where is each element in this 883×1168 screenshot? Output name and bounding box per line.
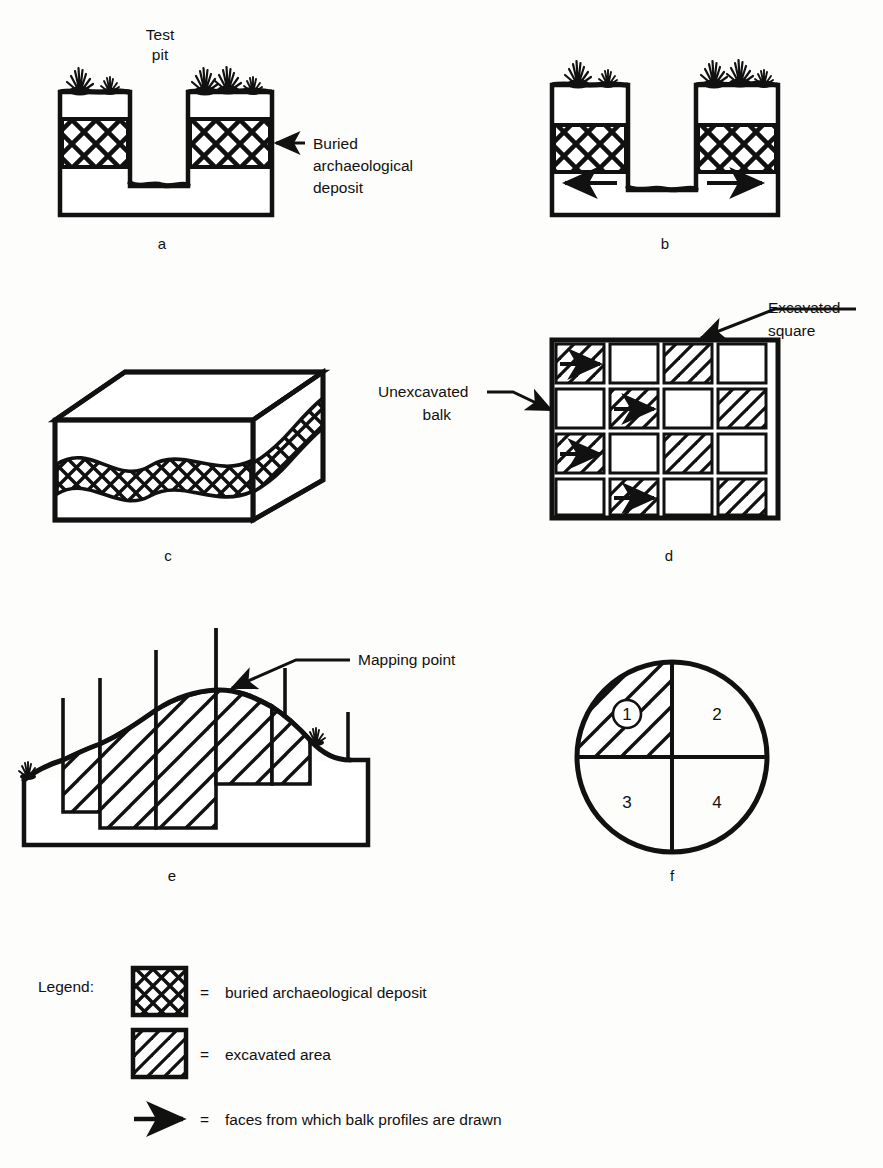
grid-cell[interactable] bbox=[718, 389, 766, 428]
quadrant-2-number: 2 bbox=[712, 705, 721, 724]
deposit-band-right bbox=[190, 119, 270, 167]
panel-letter-c: c bbox=[164, 547, 172, 564]
buried-deposit-label-line3: deposit bbox=[313, 179, 364, 196]
test-pit-label-line2: pit bbox=[152, 46, 169, 63]
panel-c-block bbox=[55, 372, 323, 520]
quadrant-4-number: 4 bbox=[712, 793, 721, 812]
deposit-band-left bbox=[62, 119, 128, 167]
grid-cell[interactable] bbox=[610, 434, 658, 473]
deposit-band-right bbox=[698, 125, 776, 172]
buried-deposit-label-line1: Buried bbox=[313, 135, 358, 152]
legend-equals-3: = bbox=[200, 1111, 209, 1128]
panel-letter-d: d bbox=[665, 547, 673, 564]
legend-equals-2: = bbox=[200, 1046, 209, 1063]
panel-letter-b: b bbox=[661, 235, 669, 252]
quadrant-3-number: 3 bbox=[622, 793, 631, 812]
grid-cell[interactable] bbox=[718, 344, 766, 383]
legend-text-2: excavated area bbox=[225, 1046, 331, 1063]
test-pit-label-line1: Test bbox=[146, 26, 175, 43]
excavated-square-label-line2: square bbox=[768, 322, 815, 339]
legend-heading: Legend: bbox=[38, 978, 94, 995]
grid-cell[interactable] bbox=[610, 344, 658, 383]
crosshatch-swatch bbox=[133, 968, 186, 1015]
pit-floor bbox=[130, 183, 188, 186]
grid-cell[interactable] bbox=[718, 434, 766, 473]
archaeology-excavation-figure: Test pit Buried archaeological deposit a bbox=[0, 0, 883, 1168]
mapping-point-label: Mapping point bbox=[358, 651, 456, 668]
grid-cell[interactable] bbox=[664, 479, 712, 515]
panel-letter-a: a bbox=[158, 235, 167, 252]
legend-text-3: faces from which balk profiles are drawn bbox=[225, 1111, 502, 1128]
grid-cell[interactable] bbox=[718, 479, 766, 515]
deposit-band-left bbox=[554, 125, 626, 172]
diagonal-hatch-swatch bbox=[133, 1030, 186, 1077]
grid-cell[interactable] bbox=[556, 479, 604, 515]
buried-deposit-label-line2: archaeological bbox=[313, 157, 413, 174]
legend-equals-1: = bbox=[200, 984, 209, 1001]
quadrant-1-number: 1 bbox=[622, 705, 631, 724]
excavated-square-label-line1: Excavated bbox=[768, 299, 840, 316]
unexcavated-balk-label-line1: Unexcavated bbox=[378, 383, 468, 400]
excavation-step-3 bbox=[156, 690, 216, 828]
unexcavated-balk-label-line2: balk bbox=[423, 406, 452, 423]
grid-cell[interactable] bbox=[664, 344, 712, 383]
grid-cell[interactable] bbox=[664, 434, 712, 473]
panel-letter-e: e bbox=[168, 867, 176, 884]
grid-cell[interactable] bbox=[664, 389, 712, 428]
surface-left bbox=[552, 84, 628, 85]
legend-text-1: buried archaeological deposit bbox=[225, 984, 427, 1001]
grid-cell[interactable] bbox=[556, 389, 604, 428]
trench-floor bbox=[628, 187, 696, 190]
